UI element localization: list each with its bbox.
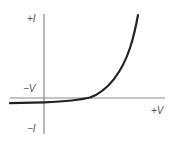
negative-voltage-label: −V xyxy=(23,84,36,94)
iv-curve-diagram: +I −V +V −I xyxy=(0,0,175,142)
positive-current-label: +I xyxy=(27,14,36,24)
positive-voltage-label: +V xyxy=(151,106,164,116)
negative-current-label: −I xyxy=(27,124,36,134)
